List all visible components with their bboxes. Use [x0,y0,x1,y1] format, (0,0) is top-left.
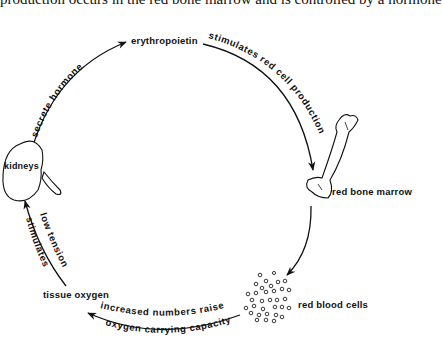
red-blood-cells-icon [244,271,291,322]
edge-label-increased-numbers: increased numbers raise [100,299,226,318]
label-red-blood-cells: red blood cells [298,299,368,310]
edge-label-stimulates-red-cell-production: stimulates red cell production [208,29,328,135]
label-erythropoietin: erythropoietin [131,35,198,46]
label-red-bone-marrow: red bone marrow [332,186,412,197]
arrow-kidneys-to-erythropoietin [30,42,126,156]
label-kidneys: kidneys [4,161,39,171]
arrow-marrow-to-blood-cells [287,206,311,275]
arrow-erythropoietin-to-marrow [203,44,313,170]
label-tissue-oxygen: tissue oxygen [43,289,109,300]
edge-label-secrete-hormone: secrete hormone [28,61,84,139]
